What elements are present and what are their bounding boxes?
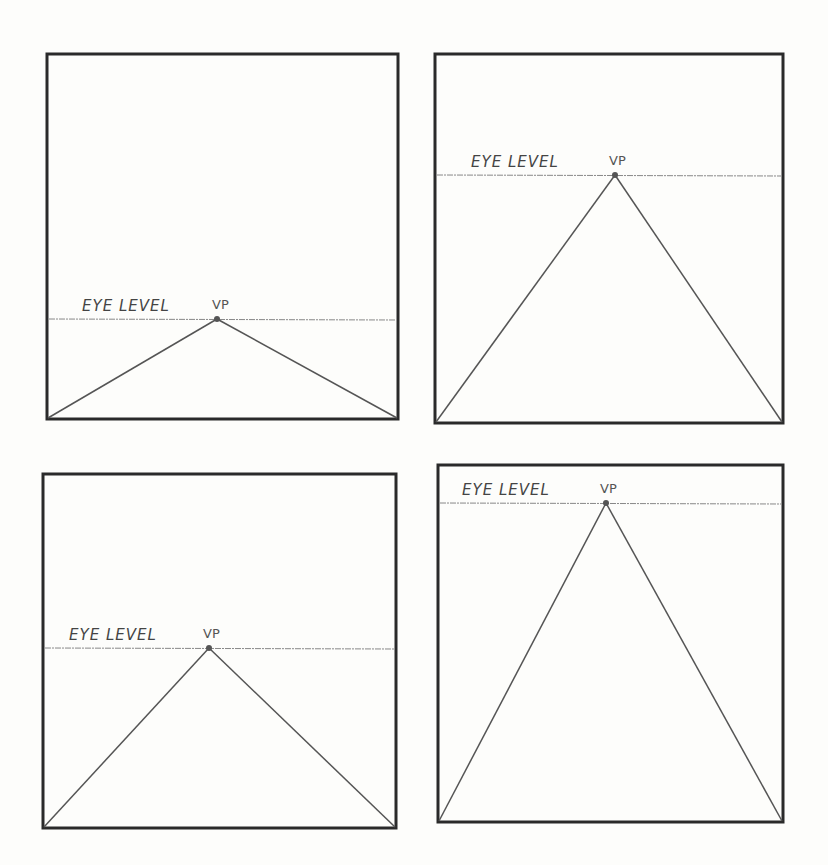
panel-3-frame xyxy=(43,474,396,828)
panel-4-vanishing-point-dot xyxy=(603,500,609,506)
panel-2-vanishing-point-dot xyxy=(612,172,618,178)
panel-3-left-orthogonal xyxy=(44,648,209,827)
panel-2-frame xyxy=(435,54,783,423)
panel-3-vanishing-point-dot xyxy=(206,645,212,651)
panel-4-left-orthogonal xyxy=(439,503,606,821)
panel-3-horizon-line xyxy=(45,648,394,649)
panel-4-right-orthogonal xyxy=(606,503,782,821)
panel-2-eye-level-label: EYE LEVEL xyxy=(471,153,559,171)
panel-1-frame xyxy=(47,54,398,419)
perspective-diagram: EYE LEVELVPEYE LEVELVPEYE LEVELVPEYE LEV… xyxy=(0,0,828,865)
panel-2-right-orthogonal xyxy=(615,175,782,422)
panel-2-horizon-line xyxy=(437,175,781,176)
panel-4-vp-label: VP xyxy=(600,481,617,496)
panel-1-vp-label: VP xyxy=(212,297,229,312)
panel-2-vp-label: VP xyxy=(609,153,626,168)
panel-2-left-orthogonal xyxy=(436,175,615,422)
panel-1-eye-level-label: EYE LEVEL xyxy=(82,297,170,315)
panel-3-right-orthogonal xyxy=(209,648,395,827)
panel-1-left-orthogonal xyxy=(48,319,217,418)
panel-4-eye-level-label: EYE LEVEL xyxy=(462,481,550,499)
panel-3-vp-label: VP xyxy=(203,626,220,641)
panel-3-eye-level-label: EYE LEVEL xyxy=(69,626,157,644)
panel-1-right-orthogonal xyxy=(217,319,397,418)
panel-4-frame xyxy=(438,465,783,822)
panel-1-horizon-line xyxy=(49,319,396,320)
panel-1-vanishing-point-dot xyxy=(214,316,220,322)
panel-4-horizon-line xyxy=(440,503,781,504)
